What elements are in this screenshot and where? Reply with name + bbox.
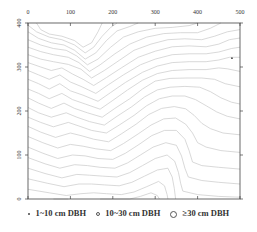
contour-line [28,23,117,53]
contour-line [28,181,168,199]
legend-label-mid: 10~30 cm DBH [105,208,160,218]
y-tick-label: 200 [16,107,22,116]
y-tick-label: 300 [16,63,22,72]
legend-label-large: ≥30 cm DBH [183,208,230,218]
contour-lines [28,23,240,199]
y-axis-left: 0100200300400 [16,19,28,201]
tree-points [231,57,233,59]
legend: 1~10 cm DBH 10~30 cm DBH ≥30 cm DBH [0,208,257,218]
y-tick-label: 400 [16,19,22,28]
y-tick-label: 0 [16,198,22,201]
contour-line [28,86,240,125]
contour-line [28,118,240,152]
x-tick-label: 200 [108,9,117,15]
legend-item-small: 1~10 cm DBH [28,208,86,218]
legend-item-mid: 10~30 cm DBH [96,208,160,218]
legend-label-small: 1~10 cm DBH [35,208,86,218]
y-axis-right-ticks [240,23,243,199]
contour-map-chart: 0100200300400500 0100200300400 [0,0,257,205]
contour-line [28,23,198,65]
contour-line [37,23,103,47]
contour-line [28,143,240,184]
tree-point [231,57,233,59]
x-tick-label: 300 [151,9,160,15]
contour-line [28,155,240,197]
large-circle-icon [170,211,177,218]
x-tick-label: 0 [27,9,30,15]
x-tick-label: 100 [66,9,75,15]
legend-item-large: ≥30 cm DBH [170,208,229,218]
y-tick-label: 100 [16,151,22,160]
small-circle-icon [96,212,100,216]
x-tick-label: 500 [236,9,245,15]
contour-line [28,68,240,109]
x-tick-label: 400 [193,9,202,15]
small-dot-icon [28,213,31,216]
contour-line [28,23,221,71]
contour-line [28,47,240,93]
contour-line [28,23,138,59]
contour-line [28,57,240,101]
